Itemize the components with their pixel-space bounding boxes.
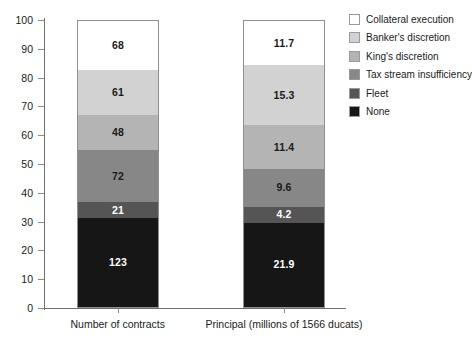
bar-segment-value-label: 68	[112, 40, 124, 51]
y-axis-tick-label: 70	[0, 101, 33, 111]
bar-segment: 9.6	[243, 169, 325, 206]
legend-item-label: Banker's discretion	[366, 32, 450, 43]
y-axis-tick-label: 40	[0, 188, 33, 198]
bar-stack: 6861487221123	[77, 20, 159, 308]
bar-segment: 15.3	[243, 65, 325, 124]
bar-segment: 11.4	[243, 125, 325, 169]
legend-swatch-icon	[349, 14, 360, 25]
bar-segment: 21	[77, 202, 159, 217]
y-axis-tick	[38, 49, 44, 50]
bar-segment: 72	[77, 150, 159, 203]
bar-segment: 68	[77, 20, 159, 70]
y-axis-tick	[38, 106, 44, 107]
y-axis-tick-label: 20	[0, 245, 33, 255]
y-axis-tick-label: 10	[0, 274, 33, 284]
bar-segment-value-label: 9.6	[277, 182, 292, 193]
y-axis-tick	[38, 135, 44, 136]
y-axis-tick	[38, 164, 44, 165]
legend-swatch-icon	[349, 32, 360, 43]
bar-segment-value-label: 61	[112, 87, 124, 98]
y-axis-tick-label: 80	[0, 73, 33, 83]
y-axis-tick	[38, 20, 44, 21]
y-axis-line	[44, 18, 45, 310]
y-axis-tick	[38, 279, 44, 280]
legend-item-label: None	[366, 106, 390, 117]
bar-segment-value-label: 11.7	[274, 38, 294, 49]
legend-item[interactable]: None	[349, 103, 465, 122]
legend-item-label: King's discretion	[366, 51, 439, 62]
legend-swatch-icon	[349, 88, 360, 99]
bar-segment-value-label: 123	[109, 257, 127, 268]
x-axis-line	[44, 308, 346, 309]
chart-legend: Collateral executionBanker's discretionK…	[349, 10, 465, 121]
bar-segment-value-label: 72	[112, 171, 124, 182]
legend-item-label: Tax stream insufficiency	[366, 69, 472, 80]
x-axis-tick	[118, 308, 119, 313]
legend-item[interactable]: Collateral execution	[349, 10, 465, 29]
bar-segment: 11.7	[243, 20, 325, 65]
legend-item[interactable]: Fleet	[349, 84, 465, 103]
legend-swatch-icon	[349, 51, 360, 62]
legend-item[interactable]: Tax stream insufficiency	[349, 66, 465, 85]
bar-segment-value-label: 15.3	[274, 90, 295, 101]
y-axis-tick	[38, 250, 44, 251]
bar-segment-value-label: 21.9	[274, 259, 295, 270]
y-axis-tick-label: 50	[0, 159, 33, 169]
x-axis-tick	[284, 308, 285, 313]
y-axis-tick	[38, 308, 44, 309]
x-axis-label: Number of contracts	[71, 318, 166, 330]
legend-item[interactable]: King's discretion	[349, 47, 465, 66]
bar-segment: 48	[77, 115, 159, 150]
legend-item[interactable]: Banker's discretion	[349, 29, 465, 48]
legend-swatch-icon	[349, 106, 360, 117]
legend-item-label: Fleet	[366, 88, 388, 99]
bar-segment-value-label: 48	[112, 127, 124, 138]
y-axis-tick-label: 60	[0, 130, 33, 140]
y-axis-tick-label: 0	[0, 303, 33, 313]
x-axis-label: Principal (millions of 1566 ducats)	[206, 318, 363, 330]
bar-segment-value-label: 11.4	[274, 142, 294, 153]
y-axis-tick	[38, 222, 44, 223]
bar-segment-value-label: 21	[112, 205, 124, 216]
bar-segment: 123	[77, 218, 159, 308]
y-axis-tick-label: 90	[0, 44, 33, 54]
bar-segment-value-label: 4.2	[277, 209, 292, 220]
bar-segment: 61	[77, 70, 159, 115]
y-axis-tick-label: 100	[0, 15, 33, 25]
y-axis-tick-label: 30	[0, 217, 33, 227]
bar-segment: 21.9	[243, 223, 325, 308]
legend-item-label: Collateral execution	[366, 14, 454, 25]
bar-segment: 4.2	[243, 207, 325, 223]
bar-stack: 11.715.311.49.64.221.9	[243, 20, 325, 308]
y-axis-tick	[38, 193, 44, 194]
y-axis-tick	[38, 78, 44, 79]
legend-swatch-icon	[349, 69, 360, 80]
